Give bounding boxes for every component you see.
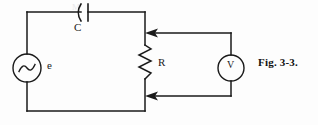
ac-source-sine-icon [19, 65, 35, 72]
voltmeter-label: V [227, 60, 234, 70]
resistor-zigzag [139, 45, 151, 79]
figure-3-3: M [0, 0, 318, 125]
capacitor-label: C [74, 22, 81, 33]
resistor-label: R [158, 57, 165, 68]
figure-caption: Fig. 3-3. [258, 56, 298, 68]
source-label: e [47, 60, 52, 71]
